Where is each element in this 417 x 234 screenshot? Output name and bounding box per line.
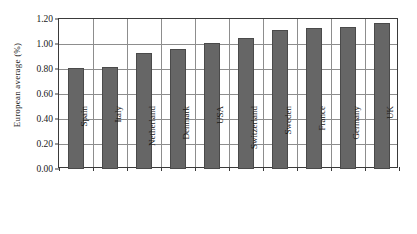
x-tick-mark <box>161 167 162 171</box>
x-tick-mark <box>127 167 128 171</box>
x-tick-mark <box>297 167 298 171</box>
y-tick-label: 0.40 <box>36 114 53 124</box>
y-tick-label: 0.80 <box>36 64 53 74</box>
x-tick-mark <box>331 167 332 171</box>
y-axis-title: European average (%) <box>12 10 22 160</box>
x-category-text: Netherland <box>147 106 157 176</box>
x-category-text: Sweden <box>283 106 293 176</box>
x-tick-mark <box>93 167 94 171</box>
y-tick-label: 0.00 <box>36 164 53 174</box>
bar-chart-figure: European average (%) 0.000.200.400.600.8… <box>0 0 417 234</box>
x-tick-mark <box>195 167 196 171</box>
x-category-text: France <box>317 106 327 176</box>
x-category-text: Germany <box>351 106 361 176</box>
x-category-text: Denmark <box>181 106 191 176</box>
bar-series <box>59 19 397 167</box>
x-category-text: Switzerland <box>249 106 259 176</box>
y-tick-label: 1.00 <box>36 39 53 49</box>
x-tick-mark <box>229 167 230 171</box>
y-tick-label: 0.60 <box>36 89 53 99</box>
x-tick-mark <box>365 167 366 171</box>
y-tick-label: 0.20 <box>36 139 53 149</box>
plot-area: 0.000.200.400.600.801.001.20 <box>58 18 398 168</box>
x-tick-mark <box>59 167 60 171</box>
x-category-text: Italy <box>113 106 123 176</box>
x-tick-mark <box>399 167 400 171</box>
x-category-text: Spain <box>79 106 89 176</box>
x-category-text: UK <box>385 106 395 176</box>
x-category-text: USA <box>215 106 225 176</box>
x-tick-mark <box>263 167 264 171</box>
y-tick-label: 1.20 <box>36 14 53 24</box>
